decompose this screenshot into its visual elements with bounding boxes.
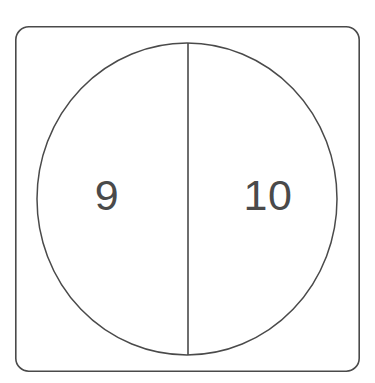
diagram-canvas: 9 10 — [0, 0, 375, 383]
left-half-label: 9 — [95, 171, 119, 219]
figure-root: 9 10 — [0, 0, 375, 383]
right-half-label: 10 — [244, 171, 293, 219]
